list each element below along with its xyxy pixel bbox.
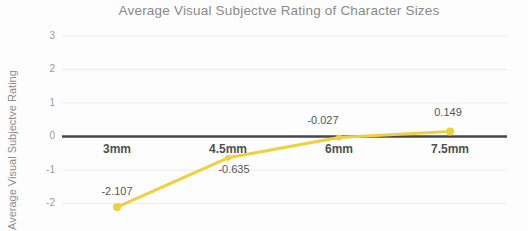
data-point-label: -0.027 [307, 114, 338, 126]
data-point-label: -0.635 [218, 163, 249, 175]
x-category-label: 7.5mm [431, 142, 469, 156]
chart-container: Average Visual Subjectve Rating of Chara… [0, 0, 528, 231]
x-category-label: 6mm [325, 142, 353, 156]
x-category-label: 4.5mm [209, 142, 247, 156]
data-point [113, 203, 121, 211]
data-point [446, 128, 454, 136]
series-points [113, 128, 454, 212]
series-line [117, 132, 450, 208]
x-category-label: 3mm [103, 142, 131, 156]
data-point-label: -2.107 [101, 185, 132, 197]
data-point [336, 134, 342, 140]
gridlines [62, 36, 507, 204]
data-point-label: 0.149 [434, 106, 462, 118]
